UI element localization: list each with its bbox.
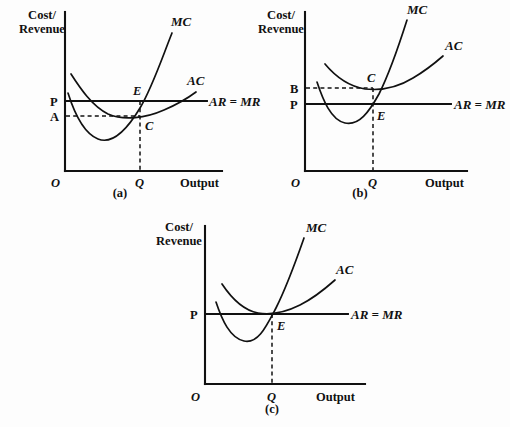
price-label-b: P bbox=[290, 98, 298, 112]
point-e-label-c: E bbox=[276, 319, 285, 333]
panel-b: Cost/ Revenue MC AC AR = MR C E bbox=[255, 0, 510, 210]
origin-label-c: O bbox=[191, 390, 200, 404]
caption-c: (c) bbox=[252, 402, 292, 417]
origin-label-a: O bbox=[51, 176, 60, 190]
point-e-label-b: E bbox=[376, 109, 385, 123]
mc-curve-b bbox=[317, 20, 407, 123]
price-label-c: P bbox=[190, 308, 198, 322]
y-axis-label-line2-a: Revenue bbox=[19, 22, 65, 36]
mc-label-a: MC bbox=[170, 14, 192, 29]
y-axis-label-line2-c: Revenue bbox=[156, 234, 202, 248]
cost-label-a: A bbox=[50, 110, 59, 124]
ac-curve-c bbox=[222, 280, 335, 314]
ar-mr-label-a: AR = MR bbox=[208, 94, 261, 109]
y-axis-label-line1-c: Cost/ bbox=[165, 220, 193, 234]
x-axis-label-b: Output bbox=[425, 176, 465, 190]
origin-label-b: O bbox=[291, 176, 300, 190]
ac-label-b: AC bbox=[444, 38, 463, 53]
ac-label-a: AC bbox=[186, 73, 205, 88]
mc-curve-c bbox=[216, 238, 304, 341]
panel-c: Cost/ Revenue MC AC AR = MR E P O Q bbox=[130, 212, 400, 427]
point-c-label-a: C bbox=[145, 119, 154, 133]
point-c-label-b: C bbox=[367, 71, 376, 85]
figure-canvas: Cost/ Revenue MC AC AR = MR E C bbox=[0, 0, 510, 427]
x-axis-label-c: Output bbox=[316, 390, 356, 404]
ar-mr-label-b: AR = MR bbox=[453, 97, 506, 112]
price-label-a: P bbox=[50, 95, 58, 109]
mc-curve-a bbox=[68, 33, 172, 140]
ar-mr-label-c: AR = MR bbox=[350, 307, 403, 322]
cost-label-b: B bbox=[290, 82, 298, 96]
point-e-label-a: E bbox=[132, 84, 141, 98]
y-axis-label-c: Cost/ Revenue bbox=[148, 220, 210, 248]
panel-a: Cost/ Revenue MC AC AR = MR E C bbox=[0, 0, 255, 210]
y-axis-label-a: Cost/ Revenue bbox=[12, 8, 72, 36]
mc-label-c: MC bbox=[305, 220, 327, 235]
ac-label-c: AC bbox=[335, 262, 354, 277]
y-axis-label-b: Cost/ Revenue bbox=[250, 8, 312, 36]
y-axis-label-line1-b: Cost/ bbox=[267, 8, 295, 22]
x-axis-label-a: Output bbox=[180, 176, 220, 190]
caption-a: (a) bbox=[100, 186, 140, 201]
caption-b: (b) bbox=[340, 186, 380, 201]
y-axis-label-line1-a: Cost/ bbox=[28, 8, 56, 22]
mc-label-b: MC bbox=[406, 2, 428, 17]
y-axis-label-line2-b: Revenue bbox=[258, 22, 304, 36]
